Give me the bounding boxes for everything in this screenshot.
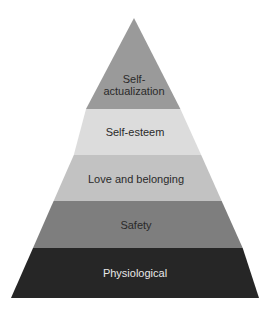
label-self-actualization-line1: Self-: [103, 73, 164, 85]
label-self-actualization-line2: actualization: [103, 85, 164, 97]
label-self-actualization: Self- actualization: [103, 73, 164, 97]
label-safety: Safety: [120, 219, 151, 231]
label-self-esteem: Self-esteem: [106, 126, 165, 138]
label-love-and-belonging: Love and belonging: [88, 173, 184, 185]
label-physiological: Physiological: [103, 267, 167, 279]
